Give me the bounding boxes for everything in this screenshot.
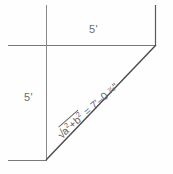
diagram-canvas: 5' 5' √a2+b2 = 7'–0 ⅞" [0, 0, 173, 174]
top-dimension-label: 5' [89, 23, 98, 35]
left-dimension-label: 5' [24, 91, 33, 103]
diagram-linework [0, 0, 173, 174]
